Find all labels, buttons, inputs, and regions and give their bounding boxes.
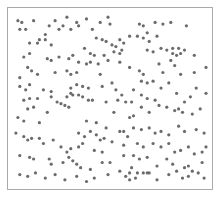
data-point	[128, 66, 131, 69]
data-point	[195, 87, 198, 90]
data-point	[146, 156, 149, 159]
data-point	[132, 114, 135, 117]
data-point	[83, 47, 86, 50]
data-point	[105, 100, 108, 103]
data-point	[118, 61, 121, 64]
data-point	[183, 166, 186, 169]
data-point	[36, 97, 39, 100]
data-point	[173, 109, 176, 112]
data-point	[50, 59, 53, 62]
data-point	[20, 21, 23, 24]
data-point	[167, 133, 170, 136]
data-point	[48, 157, 51, 160]
data-point	[146, 171, 149, 174]
data-point	[77, 61, 80, 64]
data-point	[91, 99, 94, 102]
data-point	[148, 111, 151, 114]
data-point	[14, 132, 17, 135]
data-point	[181, 111, 184, 114]
data-point	[101, 151, 104, 154]
data-point	[75, 83, 78, 86]
data-point	[67, 156, 70, 159]
data-point	[46, 57, 49, 60]
data-point	[69, 147, 72, 150]
data-point	[18, 173, 21, 176]
data-point	[122, 144, 125, 147]
data-point	[146, 49, 149, 52]
data-point	[154, 132, 157, 135]
data-point	[177, 107, 180, 110]
data-point	[173, 151, 176, 154]
data-point	[81, 85, 84, 88]
data-point	[69, 28, 72, 31]
data-point	[18, 154, 21, 157]
data-point	[140, 106, 143, 109]
data-point	[93, 177, 96, 180]
data-point	[24, 28, 27, 31]
data-point	[148, 126, 151, 129]
data-point	[69, 87, 72, 90]
data-point	[36, 73, 39, 76]
data-point	[34, 171, 37, 174]
data-point	[24, 88, 27, 91]
data-point	[175, 170, 178, 173]
data-point	[118, 38, 121, 41]
data-point	[16, 116, 19, 119]
data-point	[81, 142, 84, 145]
data-point	[140, 80, 143, 83]
data-point	[28, 97, 31, 100]
data-point	[203, 177, 206, 180]
data-point	[183, 100, 186, 103]
data-point	[152, 142, 155, 145]
data-point	[179, 73, 182, 76]
data-point	[142, 145, 145, 148]
data-point	[63, 178, 66, 181]
data-point	[69, 73, 72, 76]
data-point	[201, 151, 204, 154]
data-point	[155, 35, 158, 38]
data-point	[140, 128, 143, 131]
data-point	[103, 137, 106, 140]
data-point	[16, 19, 19, 22]
data-point	[154, 21, 157, 24]
data-point	[26, 66, 29, 69]
data-point	[138, 157, 141, 160]
data-point	[18, 85, 21, 88]
data-point	[44, 33, 47, 36]
data-point	[112, 50, 115, 53]
data-point	[106, 173, 109, 176]
data-point	[187, 164, 190, 167]
data-point	[22, 135, 25, 138]
data-point	[197, 171, 200, 174]
data-point	[152, 50, 155, 53]
data-point	[59, 145, 62, 148]
data-point	[26, 175, 29, 178]
data-point	[201, 161, 204, 164]
data-point	[28, 52, 31, 55]
data-point	[110, 81, 113, 84]
data-point	[187, 145, 190, 148]
data-point	[124, 175, 127, 178]
data-point	[85, 119, 88, 122]
data-point	[67, 57, 70, 60]
data-point	[183, 49, 186, 52]
data-point	[165, 49, 168, 52]
data-point	[183, 130, 186, 133]
data-point	[95, 133, 98, 136]
data-point	[169, 59, 172, 62]
data-point	[101, 38, 104, 41]
data-point	[79, 166, 82, 169]
data-point	[28, 83, 31, 86]
data-point	[99, 138, 102, 141]
data-point	[61, 161, 64, 164]
data-point	[77, 24, 80, 27]
data-point	[32, 157, 35, 160]
data-point	[138, 69, 141, 72]
data-point	[154, 99, 157, 102]
data-point	[187, 175, 190, 178]
data-point	[118, 130, 121, 133]
data-point	[171, 52, 174, 55]
data-point	[132, 154, 135, 157]
data-point	[89, 52, 92, 55]
data-point	[93, 149, 96, 152]
